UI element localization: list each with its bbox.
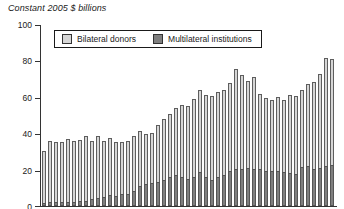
multilateral-segment	[222, 175, 226, 206]
stacked-bar	[234, 69, 238, 206]
stacked-bar	[114, 142, 118, 206]
oda-stacked-bar-chart: Constant 2005 $ billions 020406080100 Bi…	[0, 0, 344, 209]
multilateral-segment	[228, 171, 232, 206]
stacked-bar	[186, 106, 190, 206]
stacked-bar	[306, 84, 310, 206]
stacked-bar	[120, 142, 124, 206]
multilateral-segment	[294, 174, 298, 206]
multilateral-segment	[150, 183, 154, 206]
stacked-bar	[228, 83, 232, 206]
stacked-bar	[246, 81, 250, 206]
multilateral-segment	[180, 177, 184, 206]
multilateral-segment	[120, 194, 124, 206]
stacked-bar	[48, 141, 52, 206]
multilateral-segment	[288, 173, 292, 206]
multilateral-segment	[210, 180, 214, 206]
stacked-bar	[264, 98, 268, 206]
multilateral-segment	[234, 169, 238, 206]
multilateral-segment	[246, 168, 250, 206]
stacked-bar	[252, 77, 256, 206]
multilateral-segment	[300, 167, 304, 206]
stacked-bar	[240, 75, 244, 206]
multilateral-segment	[216, 177, 220, 206]
stacked-bar	[276, 97, 280, 206]
multilateral-segment	[90, 199, 94, 206]
multilateral-segment	[324, 166, 328, 206]
stacked-bar	[90, 141, 94, 206]
stacked-bar	[150, 133, 154, 206]
stacked-bar	[198, 90, 202, 206]
multilateral-swatch-icon	[153, 34, 163, 44]
multilateral-segment	[96, 198, 100, 206]
multilateral-segment	[186, 179, 190, 206]
stacked-bar	[192, 99, 196, 206]
stacked-bar	[330, 59, 334, 206]
multilateral-segment	[78, 201, 82, 206]
multilateral-segment	[282, 172, 286, 206]
multilateral-segment	[162, 180, 166, 206]
stacked-bar	[72, 141, 76, 206]
y-tick-mark	[35, 134, 40, 135]
chart-title: Constant 2005 $ billions	[8, 3, 106, 13]
y-tick-label: 0	[4, 202, 32, 209]
multilateral-segment	[108, 195, 112, 206]
y-tick-label: 100	[4, 20, 32, 30]
stacked-bar	[138, 131, 142, 206]
stacked-bar	[144, 134, 148, 206]
legend-label-bilateral: Bilateral donors	[77, 34, 136, 44]
stacked-bar	[258, 94, 262, 206]
multilateral-segment	[72, 202, 76, 206]
stacked-bar	[300, 90, 304, 206]
stacked-bar	[282, 100, 286, 206]
stacked-bar	[318, 74, 322, 206]
multilateral-segment	[258, 169, 262, 206]
multilateral-segment	[126, 194, 130, 206]
multilateral-segment	[84, 201, 88, 206]
bilateral-swatch-icon	[62, 34, 72, 44]
plot-area: 020406080100 Bilateral donors Multilater…	[40, 25, 343, 207]
y-tick-mark	[35, 61, 40, 62]
stacked-bar	[312, 82, 316, 206]
stacked-bar	[42, 151, 46, 206]
y-tick-label: 40	[4, 129, 32, 139]
multilateral-segment	[102, 197, 106, 206]
stacked-bar	[84, 136, 88, 206]
y-tick-label: 80	[4, 56, 32, 66]
y-tick-label: 60	[4, 93, 32, 103]
multilateral-segment	[66, 202, 70, 206]
stacked-bar	[174, 108, 178, 206]
y-tick-mark	[35, 206, 40, 207]
multilateral-segment	[204, 177, 208, 206]
y-tick-label: 20	[4, 166, 32, 176]
stacked-bar	[132, 136, 136, 206]
multilateral-segment	[48, 202, 52, 206]
legend-item-bilateral: Bilateral donors	[62, 34, 136, 44]
stacked-bar	[288, 95, 292, 206]
stacked-bar	[180, 105, 184, 206]
multilateral-segment	[330, 165, 334, 206]
stacked-bar	[270, 100, 274, 206]
stacked-bar	[162, 119, 166, 206]
legend: Bilateral donors Multilateral institutio…	[54, 30, 262, 48]
stacked-bar	[126, 141, 130, 206]
multilateral-segment	[270, 171, 274, 206]
multilateral-segment	[174, 175, 178, 206]
stacked-bar	[60, 142, 64, 206]
multilateral-segment	[60, 202, 64, 206]
stacked-bar	[156, 125, 160, 206]
stacked-bar	[222, 90, 226, 206]
multilateral-segment	[54, 202, 58, 206]
multilateral-segment	[240, 169, 244, 206]
multilateral-segment	[138, 186, 142, 206]
multilateral-segment	[192, 177, 196, 206]
stacked-bar	[108, 138, 112, 206]
stacked-bar	[204, 95, 208, 206]
y-tick-mark	[35, 171, 40, 172]
multilateral-segment	[144, 184, 148, 206]
stacked-bar	[66, 139, 70, 206]
multilateral-segment	[312, 169, 316, 206]
stacked-bar	[96, 136, 100, 206]
multilateral-segment	[156, 182, 160, 206]
stacked-bar	[294, 96, 298, 206]
stacked-bar	[78, 140, 82, 206]
